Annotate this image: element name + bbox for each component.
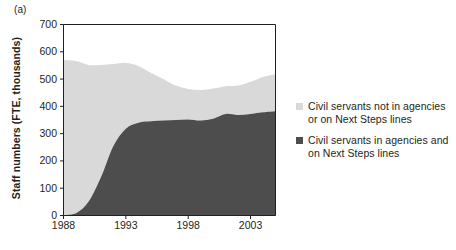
legend-label: Civil servants in agencies and on Next S… [308, 134, 454, 160]
x-tick-label: 1988 [42, 219, 86, 231]
legend-label: Civil servants not in agencies or on Nex… [308, 100, 454, 126]
legend-entry[interactable]: Civil servants not in agencies or on Nex… [296, 100, 454, 126]
legend-entry[interactable]: Civil servants in agencies and on Next S… [296, 134, 454, 160]
x-tick-label: 1993 [104, 219, 148, 231]
chart-legend: Civil servants not in agencies or on Nex… [296, 100, 454, 168]
legend-swatch-icon [296, 103, 303, 110]
x-tick-label: 1998 [166, 219, 210, 231]
legend-swatch-icon [296, 137, 303, 144]
figure-panel-a: (a) Staff numbers (FTE, thousands) 01002… [0, 0, 456, 250]
x-tick-label: 2003 [229, 219, 273, 231]
